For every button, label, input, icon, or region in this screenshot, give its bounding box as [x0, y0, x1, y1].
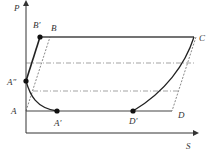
line-a2-b1: [26, 37, 40, 81]
axis-label-p: P: [13, 3, 20, 13]
label-a-prime: A′: [53, 118, 62, 128]
point-a-double-prime-dot: [23, 78, 28, 83]
point-b-prime-dot: [37, 34, 42, 39]
point-a-prime-dot: [54, 108, 59, 113]
label-a-double-prime: A″: [6, 77, 16, 87]
ideal-expansion-line: [172, 37, 196, 111]
label-b-prime: B′: [33, 20, 41, 30]
curve-d1-c: [133, 37, 194, 111]
label-c: C: [199, 33, 206, 43]
ps-diagram: P S B′ B C A″ A A′ D′ D: [0, 0, 208, 151]
label-d-prime: D′: [128, 116, 138, 126]
label-b: B: [51, 23, 57, 33]
label-a: A: [10, 106, 17, 116]
axis-label-s: S: [186, 141, 191, 151]
ideal-compression-line: [26, 37, 50, 111]
point-d-prime-dot: [130, 108, 135, 113]
label-d: D: [177, 110, 185, 120]
